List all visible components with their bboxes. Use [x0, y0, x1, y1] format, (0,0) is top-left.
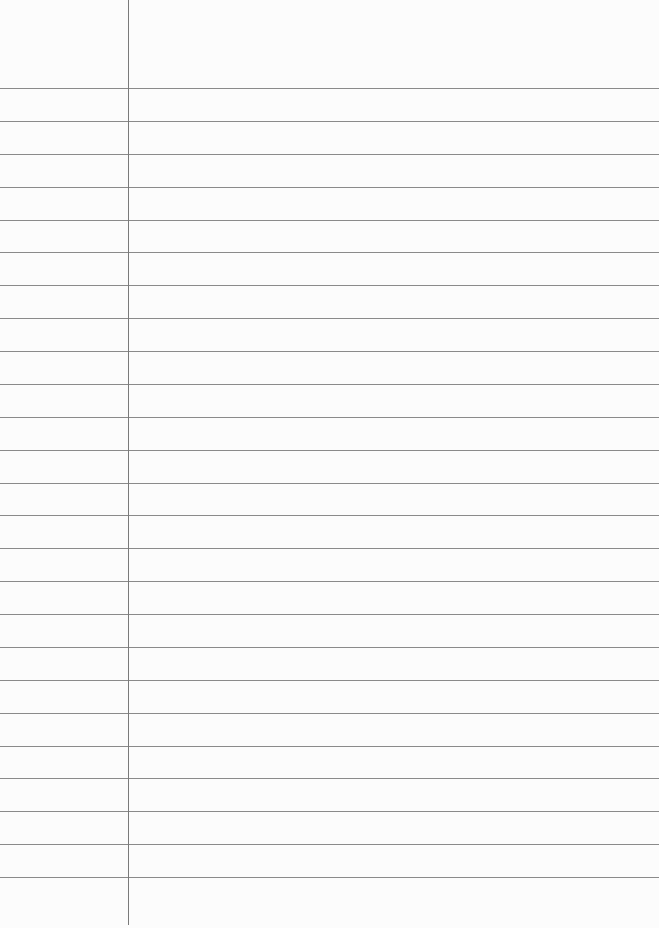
- ruled-line: [0, 318, 659, 319]
- ruled-line: [0, 778, 659, 779]
- ruled-line: [0, 548, 659, 549]
- ruled-line: [0, 647, 659, 648]
- lined-paper: [0, 0, 659, 928]
- ruled-line: [0, 614, 659, 615]
- ruled-line: [0, 88, 659, 89]
- ruled-line: [0, 746, 659, 747]
- ruled-line: [0, 844, 659, 845]
- ruled-line: [0, 450, 659, 451]
- ruled-line: [0, 285, 659, 286]
- ruled-line: [0, 384, 659, 385]
- ruled-line: [0, 811, 659, 812]
- ruled-line: [0, 581, 659, 582]
- ruled-line: [0, 351, 659, 352]
- ruled-line: [0, 417, 659, 418]
- ruled-line: [0, 877, 659, 878]
- ruled-line: [0, 483, 659, 484]
- ruled-line: [0, 154, 659, 155]
- margin-line: [128, 0, 129, 925]
- ruled-line: [0, 252, 659, 253]
- ruled-line: [0, 220, 659, 221]
- ruled-line: [0, 121, 659, 122]
- ruled-line: [0, 713, 659, 714]
- ruled-line: [0, 680, 659, 681]
- ruled-line: [0, 515, 659, 516]
- ruled-line: [0, 187, 659, 188]
